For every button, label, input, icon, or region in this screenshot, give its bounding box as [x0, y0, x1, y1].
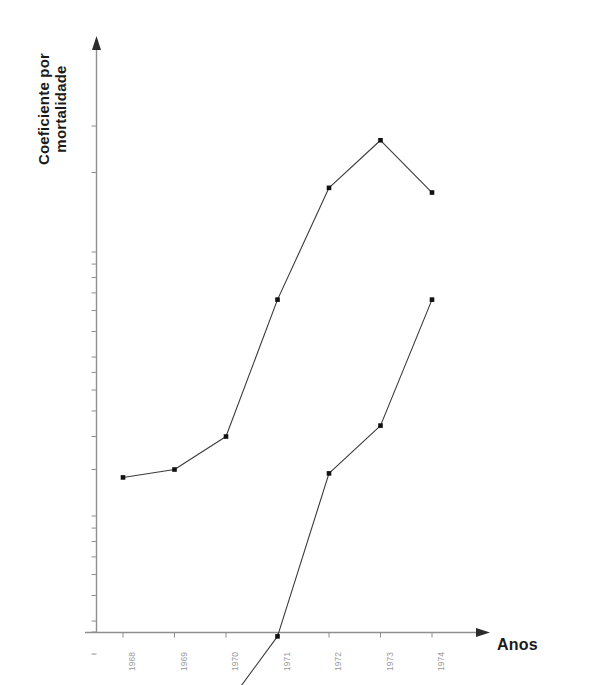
x-tick-label: 1973: [385, 652, 395, 671]
chart-container: 30,020,010,09,08,07,06,05,04,03,53,02,52…: [0, 0, 597, 685]
x-tick-label: 1968: [127, 652, 137, 671]
x-tick-label: 1972: [333, 652, 343, 671]
x-tick-label: 1970: [230, 652, 240, 671]
x-axis-tick-labels: 1968196919701971197219731974: [0, 0, 597, 685]
x-tick-label: 1971: [282, 652, 292, 671]
x-tick-label: 1969: [179, 652, 189, 671]
x-tick-label: 1974: [436, 652, 446, 671]
x-axis-title: Anos: [497, 636, 538, 654]
y-axis-title: Coeficiente por mortalidade: [35, 24, 69, 194]
